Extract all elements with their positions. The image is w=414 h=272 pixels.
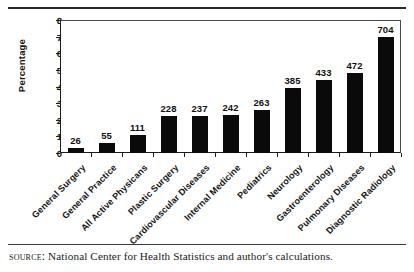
bar: [161, 116, 177, 153]
bar: [378, 37, 394, 153]
bar: [316, 80, 332, 153]
bar: [347, 73, 363, 153]
x-axis-tick-mark: [91, 153, 92, 157]
bar: [254, 110, 270, 153]
x-axis-tick-mark: [339, 153, 340, 157]
bottom-divider-rule: [8, 244, 406, 245]
x-axis-tick-mark: [184, 153, 185, 157]
bar-value-label: 111: [118, 123, 158, 133]
source-label: Source:: [9, 250, 45, 263]
source-text: National Center for Health Statistics an…: [48, 250, 333, 262]
bar-value-label: 472: [335, 61, 375, 71]
bar: [192, 116, 208, 153]
bar-value-label: 55: [87, 131, 127, 141]
bar: [130, 135, 146, 153]
bar-value-label: 385: [273, 76, 313, 86]
y-axis-tick-mark: [56, 153, 60, 154]
x-axis-tick-mark: [277, 153, 278, 157]
x-axis-tick-mark: [401, 153, 402, 157]
source-note: Source: National Center for Health Stati…: [9, 250, 409, 263]
bar: [68, 148, 84, 153]
x-axis-tick-mark: [153, 153, 154, 157]
bar: [223, 115, 239, 153]
x-axis-tick-mark: [122, 153, 123, 157]
bar-value-label: 263: [242, 98, 282, 108]
bar-value-label: 704: [366, 25, 406, 35]
bar: [285, 88, 301, 153]
bar: [99, 143, 115, 153]
x-axis-tick-mark: [370, 153, 371, 157]
x-axis-tick-mark: [246, 153, 247, 157]
x-axis-tick-mark: [215, 153, 216, 157]
figure-container: Percentage 012345678 2655111228237242263…: [0, 0, 414, 272]
x-axis-tick-mark: [308, 153, 309, 157]
